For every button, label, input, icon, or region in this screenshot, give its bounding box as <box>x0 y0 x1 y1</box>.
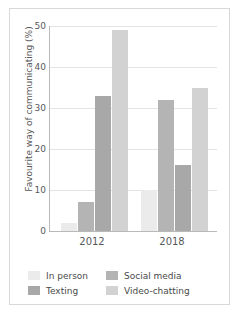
chart-legend: In person Social media Texting Video-cha… <box>28 268 214 298</box>
legend-label-video-chatting: Video-chatting <box>124 286 190 296</box>
bar-group-2012 <box>61 26 125 231</box>
bar-2012-in-person <box>61 223 77 231</box>
x-axis-line <box>49 231 217 232</box>
plot-area <box>49 26 217 231</box>
y-axis-line <box>49 26 50 232</box>
bar-2018-texting <box>175 165 191 231</box>
legend-label-social-media: Social media <box>124 271 182 281</box>
x-tick-2018: 2018 <box>142 236 202 247</box>
legend-item-texting: Texting <box>28 286 106 296</box>
legend-item-in-person: In person <box>28 271 106 281</box>
x-tick-2012: 2012 <box>62 236 122 247</box>
legend-label-texting: Texting <box>46 286 78 296</box>
legend-swatch-social-media <box>106 271 118 280</box>
legend-row-2: Texting Video-chatting <box>28 283 214 298</box>
bar-2012-video-chatting <box>112 30 128 231</box>
chart-figure: 50 40 30 20 10 0 Favourite way of commun… <box>0 0 241 315</box>
bar-2012-social-media <box>78 202 94 231</box>
legend-label-in-person: In person <box>46 271 88 281</box>
legend-swatch-texting <box>28 286 40 295</box>
bar-group-2018 <box>141 26 205 231</box>
bar-2018-in-person <box>141 190 157 231</box>
y-tick-0: 0 <box>22 227 46 236</box>
legend-swatch-video-chatting <box>106 286 118 295</box>
bar-2018-video-chatting <box>192 88 208 232</box>
bar-2018-social-media <box>158 100 174 231</box>
legend-row-1: In person Social media <box>28 268 214 283</box>
bar-2012-texting <box>95 96 111 231</box>
legend-item-video-chatting: Video-chatting <box>106 286 190 296</box>
legend-swatch-in-person <box>28 271 40 280</box>
legend-item-social-media: Social media <box>106 271 182 281</box>
y-axis-title: Favourite way of communicating (%) <box>24 16 34 202</box>
